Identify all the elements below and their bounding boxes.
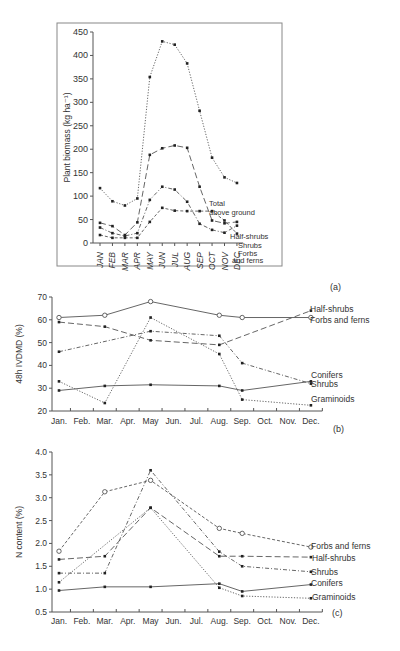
y-axis-label: 48h IVDMD (%)	[14, 324, 24, 384]
y-tick-label: 250	[73, 121, 88, 131]
data-marker	[161, 185, 164, 188]
data-marker	[124, 237, 127, 240]
data-marker	[241, 362, 244, 365]
panel-label: (b)	[333, 424, 344, 434]
data-marker	[58, 389, 61, 392]
data-marker	[149, 469, 152, 472]
series-line-conifers	[59, 584, 311, 592]
y-axis-label: N content (%)	[14, 506, 24, 558]
data-marker	[186, 147, 189, 150]
data-marker	[211, 156, 214, 159]
data-marker-open	[103, 313, 107, 317]
x-tick-label: Mar.	[97, 616, 114, 626]
data-marker	[104, 586, 107, 589]
data-marker	[58, 589, 61, 592]
x-tick-label: Oct.	[257, 616, 273, 626]
legend-label-c-3: Conifers	[311, 578, 343, 588]
data-marker-open	[148, 478, 152, 482]
data-marker	[218, 344, 221, 347]
data-marker	[223, 219, 226, 222]
y-tick-label: 0	[83, 238, 88, 248]
legend-label-c-4: Graminoids	[312, 592, 355, 602]
data-marker	[149, 221, 152, 224]
y-tick-label: 70	[38, 292, 48, 302]
data-marker	[136, 221, 139, 224]
data-marker	[241, 555, 244, 558]
y-tick-label: 200	[73, 144, 88, 154]
data-marker-open	[57, 549, 61, 553]
x-tick-label: Jul.	[190, 616, 203, 626]
x-tick-label: Dec.	[302, 416, 319, 426]
y-tick-label: 400	[73, 50, 88, 60]
data-marker	[241, 565, 244, 568]
data-marker	[99, 187, 102, 190]
data-marker	[104, 385, 107, 388]
data-marker	[198, 185, 201, 188]
data-marker	[223, 222, 226, 225]
y-tick-label: 40	[38, 360, 48, 370]
y-tick-label: 150	[73, 168, 88, 178]
x-tick-label: Aug.	[211, 416, 229, 426]
data-marker	[211, 229, 214, 232]
data-marker	[236, 224, 239, 227]
data-marker	[236, 182, 239, 185]
x-tick-label: Dec.	[302, 616, 319, 626]
data-marker	[198, 210, 201, 213]
x-tick-label: SEP	[195, 252, 205, 269]
y-tick-label: 3.0	[35, 493, 47, 503]
data-marker-open	[148, 299, 152, 303]
data-marker	[149, 199, 152, 202]
data-marker	[111, 200, 114, 203]
data-marker	[149, 316, 152, 319]
data-marker-open	[217, 313, 221, 317]
data-marker-open	[240, 531, 244, 535]
x-tick-label: NOV	[220, 251, 230, 271]
data-marker	[211, 219, 214, 222]
x-tick-label: JUL	[170, 252, 180, 268]
annotation-half-shrubs: Half-shrubs	[230, 232, 269, 241]
x-tick-label: Aug.	[211, 616, 229, 626]
data-marker	[149, 339, 152, 342]
annotation-total: Total	[209, 199, 225, 208]
legend-label-c-0: Forbs and ferns	[311, 541, 371, 551]
data-marker	[111, 225, 114, 228]
data-marker	[218, 334, 221, 337]
data-marker	[173, 188, 176, 191]
x-tick-label: OCT	[207, 251, 217, 270]
data-marker	[58, 380, 61, 383]
series-line-forbs-and-ferns	[59, 480, 311, 551]
y-tick-label: 50	[78, 215, 88, 225]
data-marker	[149, 330, 152, 333]
y-tick-label: 2.5	[35, 516, 47, 526]
data-marker	[104, 555, 107, 558]
data-marker	[99, 234, 102, 237]
data-marker	[58, 558, 61, 561]
data-marker-open	[240, 315, 244, 319]
series-line-shrubs	[59, 381, 311, 390]
x-tick-label: Feb.	[73, 416, 90, 426]
data-marker	[173, 144, 176, 147]
data-marker	[161, 147, 164, 150]
x-tick-label: Apr.	[120, 416, 135, 426]
data-marker	[104, 572, 107, 575]
data-marker	[136, 237, 139, 240]
x-tick-label: Feb.	[73, 616, 90, 626]
chart-panel-0: 050100150200250300350400450Plant biomass…	[57, 23, 341, 292]
annotation-total-2: above ground	[209, 208, 255, 217]
y-tick-label: 4.0	[35, 447, 47, 457]
data-marker	[173, 43, 176, 46]
legend-label-c-1: Half-shrubs	[312, 553, 355, 563]
data-marker	[111, 232, 114, 235]
x-tick-label: JAN	[95, 251, 105, 269]
x-tick-label: Jan.	[51, 416, 67, 426]
legend-label-b-3: Shrubs	[311, 379, 338, 389]
annotation-ferns: and ferns	[232, 256, 264, 265]
data-marker	[58, 581, 61, 584]
data-marker	[136, 197, 139, 200]
series-line-half-shrubs	[100, 145, 237, 235]
series-line-forbs-and-ferns	[59, 302, 311, 318]
data-marker	[173, 209, 176, 212]
series-line-graminoids	[59, 318, 311, 406]
data-marker	[111, 237, 114, 240]
x-tick-label: Jul.	[190, 416, 203, 426]
